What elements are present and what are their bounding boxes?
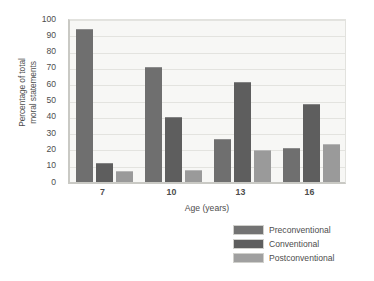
x-axis-tick-labels: 7101316 xyxy=(68,187,346,201)
x-tick-label: 13 xyxy=(221,187,261,197)
y-axis-tick-labels: 0102030405060708090100 xyxy=(12,14,56,189)
legend-label: Postconventional xyxy=(269,253,334,263)
y-tick-label: 70 xyxy=(12,63,56,72)
legend-swatch xyxy=(233,225,264,235)
bar xyxy=(214,139,231,182)
bar xyxy=(234,82,251,182)
y-tick-label: 60 xyxy=(12,80,56,89)
bar xyxy=(76,29,93,182)
legend-label: Preconventional xyxy=(269,225,331,235)
y-tick-label: 90 xyxy=(12,31,56,40)
x-tick-label: 10 xyxy=(152,187,192,197)
y-tick-label: 40 xyxy=(12,112,56,121)
bar xyxy=(283,148,300,182)
chart-legend: PreconventionalConventionalPostconventio… xyxy=(233,223,374,265)
y-tick-label: 30 xyxy=(12,129,56,138)
legend-label: Conventional xyxy=(269,239,319,249)
bar xyxy=(254,150,271,182)
bar xyxy=(116,171,133,182)
legend-item: Preconventional xyxy=(233,223,374,236)
y-tick-label: 20 xyxy=(12,145,56,154)
x-axis-title: Age (years) xyxy=(68,203,346,213)
bar xyxy=(323,144,340,182)
bar xyxy=(165,117,182,182)
bar xyxy=(96,163,113,182)
legend-item: Conventional xyxy=(233,237,374,250)
bar-series-group xyxy=(70,20,345,182)
y-tick-label: 0 xyxy=(12,178,56,187)
legend-item: Postconventional xyxy=(233,251,374,264)
x-tick-label: 16 xyxy=(290,187,330,197)
y-tick-label: 10 xyxy=(12,161,56,170)
plot-area xyxy=(68,19,346,184)
y-tick-label: 80 xyxy=(12,47,56,56)
bar xyxy=(145,67,162,182)
bar-chart-figure: Percentage of total moral statements 010… xyxy=(0,0,374,281)
legend-swatch xyxy=(233,239,264,249)
x-tick-label: 7 xyxy=(83,187,123,197)
y-tick-label: 50 xyxy=(12,96,56,105)
legend-swatch xyxy=(233,253,264,263)
bar xyxy=(303,104,320,182)
bar xyxy=(185,170,202,182)
y-tick-label: 100 xyxy=(12,15,56,24)
